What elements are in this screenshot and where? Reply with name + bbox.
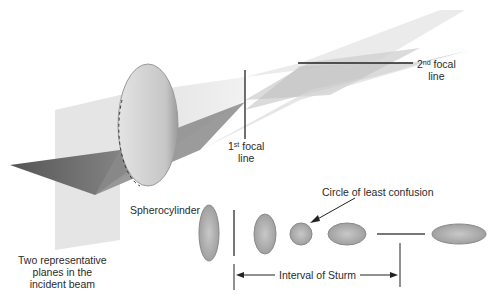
- cross-section-vertical-ellipse-small: [254, 214, 276, 254]
- pointer-arrow: [310, 198, 355, 223]
- label-circle-of-least-confusion: Circle of least confusion: [322, 186, 433, 198]
- spherocylinder-lens: [118, 64, 178, 186]
- label-interval-of-sturm: Interval of Sturm: [279, 269, 356, 281]
- label-incident-planes: Two representative planes in the inciden…: [18, 254, 107, 290]
- label-second-focal-line: 2nd focal line: [417, 58, 456, 82]
- label-first-focal-line: 1st focal line: [228, 140, 264, 164]
- cross-section-circle-of-least-confusion: [290, 223, 312, 245]
- cross-sections: [199, 205, 486, 261]
- cross-section-horizontal-ellipse-large: [432, 224, 486, 244]
- cross-section-horizontal-ellipse-small: [328, 223, 366, 245]
- cross-section-vertical-ellipse-large: [199, 205, 219, 261]
- label-spherocylinder: Spherocylinder: [130, 204, 200, 216]
